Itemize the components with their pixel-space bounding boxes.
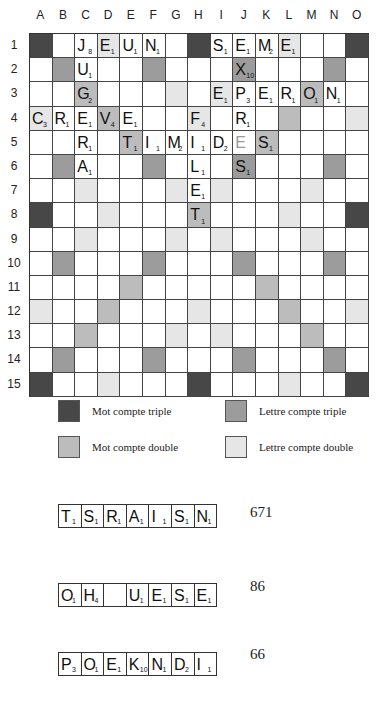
tile-letter: D	[213, 134, 225, 152]
board-cell	[188, 58, 211, 82]
board-cell	[98, 203, 121, 227]
tile-letter: N	[197, 508, 209, 526]
board-cell	[279, 348, 302, 372]
tile-letter: S	[258, 134, 269, 152]
board-cell	[53, 348, 76, 372]
board-cell	[346, 58, 369, 82]
board-cell	[346, 34, 369, 58]
board-cell	[30, 324, 53, 348]
board-cell	[166, 228, 189, 252]
board-cell	[301, 58, 324, 82]
board-cell	[279, 179, 302, 203]
column-label: O	[345, 8, 368, 22]
tile-value: 1	[292, 48, 296, 55]
board-tile: E1	[256, 82, 279, 106]
column-label: B	[52, 8, 75, 22]
board-cell	[256, 348, 279, 372]
board-cell	[30, 348, 53, 372]
board-tile: G2	[75, 82, 98, 106]
board-cell	[256, 179, 279, 203]
tile-value: 1	[156, 145, 160, 152]
board-cell	[301, 252, 324, 276]
board-cell	[120, 155, 143, 179]
board-cell	[120, 228, 143, 252]
tile-letter: C	[32, 110, 44, 128]
board-cell	[324, 324, 347, 348]
board-cell	[143, 179, 166, 203]
tile-value: 3	[72, 666, 76, 673]
tile-letter: E	[258, 85, 269, 103]
board-cell	[188, 34, 211, 58]
board-cell	[324, 228, 347, 252]
board-tile: R1	[75, 131, 98, 155]
board-tile: M2	[166, 131, 189, 155]
column-label: L	[278, 8, 301, 22]
board-cell	[30, 82, 53, 106]
board-cell	[211, 107, 234, 131]
board-cell	[256, 155, 279, 179]
board-cell	[98, 252, 121, 276]
board-cell	[30, 252, 53, 276]
board-cell	[211, 203, 234, 227]
board-cell	[211, 324, 234, 348]
board-cell	[256, 228, 279, 252]
board-cell	[279, 252, 302, 276]
board-cell	[120, 300, 143, 324]
board-cell	[53, 155, 76, 179]
tile-letter: A	[77, 158, 88, 176]
scrabble-board: J8E1U1N1S1E1M2E1U1X10G2E1P3E1R1O1N1C3R1E…	[29, 33, 369, 397]
rack-tile: S1	[172, 505, 195, 528]
tile-letter: U	[122, 37, 134, 55]
board-tile: A1	[75, 155, 98, 179]
tile-value: 1	[208, 518, 212, 525]
board-cell	[211, 300, 234, 324]
board-tile: E	[233, 131, 256, 155]
board-cell	[30, 179, 53, 203]
board-cell	[75, 179, 98, 203]
tile-letter: F	[190, 110, 200, 128]
board-tile: I1	[188, 131, 211, 155]
board-cell	[75, 276, 98, 300]
row-label: 11	[2, 275, 26, 299]
tile-letter: E	[213, 85, 224, 103]
legend-item-lettre-triple: Lettre compte triple	[225, 400, 346, 422]
tile-value: 1	[88, 145, 92, 152]
rack-tile: U1	[127, 584, 150, 607]
tile-value: 2	[185, 666, 189, 673]
column-label: M	[300, 8, 323, 22]
board-cell	[53, 82, 76, 106]
tile-letter: I	[190, 134, 194, 152]
board-tile: E1	[279, 34, 302, 58]
tile-value: 1	[185, 597, 189, 604]
tile-value: 1	[72, 518, 76, 525]
board-cell	[324, 203, 347, 227]
board-cell	[143, 58, 166, 82]
board-cell	[143, 252, 166, 276]
column-label: E	[119, 8, 142, 22]
board-cell	[166, 348, 189, 372]
board-tile: D2	[211, 131, 234, 155]
rack-tile: H4	[82, 584, 105, 607]
board-cell	[346, 276, 369, 300]
board-cell	[30, 228, 53, 252]
board-cell	[256, 203, 279, 227]
board-cell	[233, 276, 256, 300]
board-cell	[98, 348, 121, 372]
board-tile: N1	[143, 34, 166, 58]
column-label: D	[97, 8, 120, 22]
tile-value: 10	[140, 666, 148, 673]
board-cell	[233, 228, 256, 252]
tile-letter: D	[174, 656, 186, 674]
tile-value: 1	[117, 666, 121, 673]
legend-swatch	[225, 400, 247, 422]
tile-letter: E	[106, 656, 117, 674]
board-tile: E1	[233, 34, 256, 58]
rack-tile: E1	[104, 653, 127, 676]
board-cell	[233, 373, 256, 397]
board-cell	[301, 155, 324, 179]
tile-letter: U	[129, 587, 141, 605]
tile-letter: P	[235, 85, 246, 103]
tile-letter: P	[61, 656, 72, 674]
rack-tile: S1	[82, 505, 105, 528]
board-cell	[279, 155, 302, 179]
